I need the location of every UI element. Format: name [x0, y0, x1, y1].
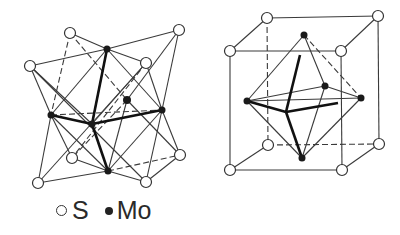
s-atom [336, 46, 347, 57]
mo-atom [105, 168, 112, 175]
s-atom [33, 178, 44, 189]
s-atom [225, 165, 236, 176]
s-atom [141, 58, 152, 69]
open-circle-icon [56, 205, 67, 216]
s-atom [65, 28, 76, 39]
mo-atom [89, 121, 96, 128]
left-structure [30, 30, 180, 183]
s-atom [174, 25, 185, 36]
mo-atom [244, 98, 251, 105]
s-atom [374, 139, 385, 150]
s-atom [225, 46, 236, 57]
legend-label-s: S [72, 196, 89, 225]
mo-atom [322, 83, 329, 90]
s-atom [337, 165, 348, 176]
mo-atom [299, 155, 306, 162]
mo-atom [301, 32, 308, 39]
mo-atom [48, 112, 55, 119]
filled-circle-icon [105, 207, 113, 215]
mo-atom [159, 107, 166, 114]
s-atom [67, 153, 78, 164]
s-atom [25, 61, 36, 72]
s-atom [373, 11, 384, 22]
s-atom [262, 13, 273, 24]
s-atom [263, 140, 274, 151]
legend-label-mo: Mo [117, 196, 152, 225]
mo-atom [104, 46, 111, 53]
legend: S Mo [56, 196, 151, 225]
mo-atom [123, 96, 131, 104]
mo-atom [358, 95, 365, 102]
s-atom [141, 177, 152, 188]
s-atom [175, 150, 186, 161]
right-structure [230, 16, 379, 170]
